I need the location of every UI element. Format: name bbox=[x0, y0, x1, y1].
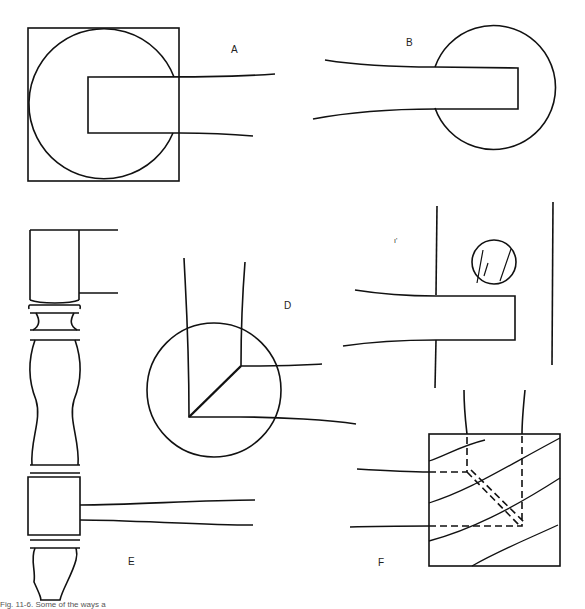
panel-label-a: A bbox=[231, 44, 238, 55]
panel-label-f: F bbox=[378, 557, 384, 568]
panel-b-drawing bbox=[313, 25, 556, 149]
panel-e-drawing bbox=[28, 230, 255, 600]
panel-label-d: D bbox=[284, 300, 291, 311]
panel-d-drawing bbox=[147, 258, 356, 457]
panel-c-drawing bbox=[343, 202, 553, 388]
joinery-diagram bbox=[0, 0, 585, 609]
panel-f-drawing bbox=[350, 390, 560, 566]
panel-label-c: ı' bbox=[394, 237, 397, 244]
panel-label-b: B bbox=[406, 37, 413, 48]
panel-label-e: E bbox=[128, 556, 135, 567]
figure-caption: Fig. 11-6. Some of the ways a bbox=[0, 600, 585, 609]
